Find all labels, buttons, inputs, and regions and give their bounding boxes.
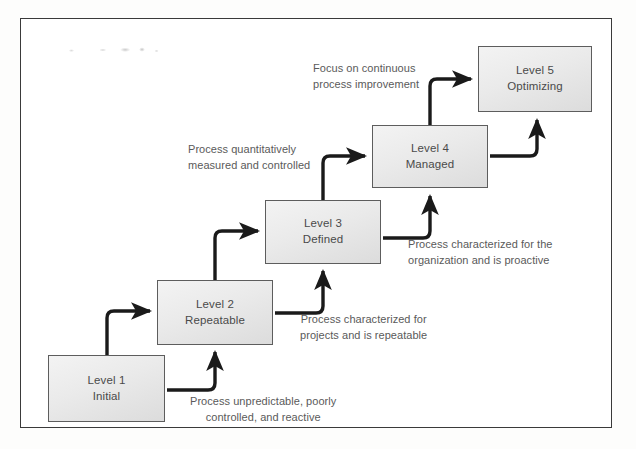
caption-level-5-line-1: Focus on continuous xyxy=(313,61,419,77)
connector-l4-to-l5-side xyxy=(430,79,471,127)
caption-level-2-line-1: Process characterized for xyxy=(300,312,427,328)
level-2-number: Level 2 xyxy=(196,297,234,313)
caption-level-2: Process characterized for projects and i… xyxy=(300,312,427,343)
caption-level-4-line-2: measured and controlled xyxy=(188,158,310,174)
caption-level-4-line-1: Process quantitatively xyxy=(188,142,310,158)
connector-l1-to-l2-side xyxy=(107,311,150,357)
caption-level-1-line-2: controlled, and reactive xyxy=(190,410,336,426)
level-5-number: Level 5 xyxy=(516,63,554,79)
level-2-name: Repeatable xyxy=(185,313,245,329)
connector-l1-to-l2-bottom xyxy=(167,352,215,390)
caption-level-1-line-1: Process unpredictable, poorly xyxy=(190,394,336,410)
level-box-3[interactable]: Level 3 Defined xyxy=(265,200,381,264)
caption-level-3: Process characterized for the organizati… xyxy=(408,237,553,268)
level-box-4[interactable]: Level 4 Managed xyxy=(372,125,488,188)
diagram-page: Level 1 Initial Level 2 Repeatable Level… xyxy=(0,0,636,449)
connector-l3-to-l4-bottom xyxy=(383,196,430,238)
level-4-number: Level 4 xyxy=(411,141,449,157)
connector-l4-to-l5-bottom xyxy=(490,120,537,156)
caption-level-5: Focus on continuous process improvement xyxy=(313,61,419,92)
caption-level-2-line-2: projects and is repeatable xyxy=(300,328,427,344)
level-box-2[interactable]: Level 2 Repeatable xyxy=(157,280,273,345)
level-3-number: Level 3 xyxy=(304,216,342,232)
level-3-name: Defined xyxy=(303,232,343,248)
caption-level-3-line-1: Process characterized for the xyxy=(408,237,553,253)
level-box-1[interactable]: Level 1 Initial xyxy=(48,355,165,422)
level-5-name: Optimizing xyxy=(507,79,562,95)
caption-level-4: Process quantitatively measured and cont… xyxy=(188,142,310,173)
caption-level-1: Process unpredictable, poorly controlled… xyxy=(190,394,336,425)
level-box-5[interactable]: Level 5 Optimizing xyxy=(478,46,592,112)
caption-level-5-line-2: process improvement xyxy=(313,77,419,93)
level-1-name: Initial xyxy=(93,389,121,405)
caption-level-3-line-2: organization and is proactive xyxy=(408,253,553,269)
connector-l2-to-l3-bottom xyxy=(275,271,323,313)
connector-l2-to-l3-side xyxy=(215,231,258,282)
level-1-number: Level 1 xyxy=(88,373,126,389)
connector-l3-to-l4-side xyxy=(323,156,365,202)
level-4-name: Managed xyxy=(406,157,455,173)
